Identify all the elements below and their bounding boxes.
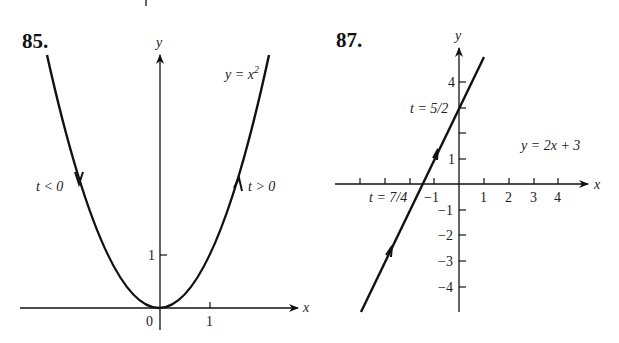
t-positive-label: t > 0 [248,179,275,194]
x-tick-label-3: 3 [530,190,537,205]
curve-equation-label: y = x2 [223,64,259,82]
y-tick-label-1: 1 [148,248,155,263]
y-tick-label-neg4: −4 [438,280,453,295]
y-axis-label: y [453,28,462,43]
y-tick-label-neg1: −1 [438,203,453,218]
x-axis-label: x [302,300,310,315]
x-tick-label-4: 4 [554,190,561,205]
line-equation-label: y = 2x + 3 [519,138,580,153]
x-axis-label: x [593,177,601,192]
graph-87: 87. x y −1 1 2 3 4 [335,28,601,312]
y-tick-label-neg2: −2 [438,228,453,243]
y-tick-label-1: 1 [448,152,455,167]
y-axis-label: y [154,35,163,50]
x-tick-label-neg1: −1 [424,190,439,205]
t-five-halves-label: t = 5/2 [410,101,448,116]
origin-label: 0 [146,314,153,329]
y-tick-label-4: 4 [448,75,455,90]
graph-85-number: 85. [22,29,48,53]
t-seven-quarters-label: t = 7/4 [369,190,407,205]
x-tick-label-1: 1 [480,190,487,205]
graph-87-number: 87. [336,28,362,52]
figure: 85. x y 1 1 0 t < 0 t > 0 y = x2 87. x y [0,0,619,343]
y-tick-label-neg3: −3 [438,254,453,269]
graph-85: 85. x y 1 1 0 t < 0 t > 0 y = x2 [20,29,310,330]
x-tick-label-1: 1 [206,314,213,329]
t-negative-label: t < 0 [36,179,63,194]
x-tick-label-2: 2 [505,190,512,205]
